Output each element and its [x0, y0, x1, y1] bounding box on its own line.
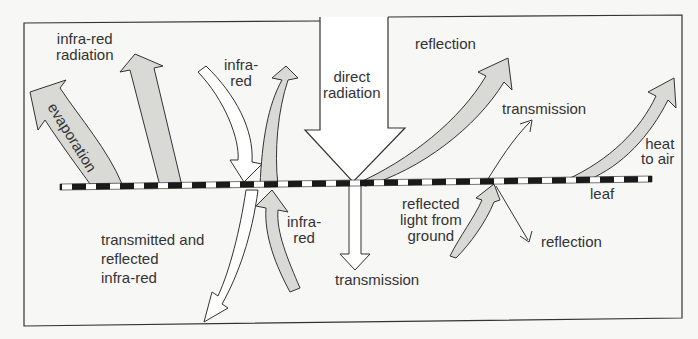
- label-transmission-bottom: transmission: [335, 272, 419, 288]
- label-transmitted-reflected-infrared: transmitted and reflected infra-red: [101, 230, 204, 287]
- label-reflected-light-from-ground: reflected light from ground: [400, 196, 462, 244]
- transmitted-reflected-infrared-arrow: [204, 190, 258, 322]
- label-transmission-top: transmission: [502, 101, 586, 117]
- reflection-bottom-arrow: [496, 186, 532, 242]
- transmission-top-arrow: [486, 120, 532, 182]
- label-infrared-below: infra- red: [287, 214, 321, 246]
- label-reflection-top: reflection: [415, 36, 476, 52]
- label-infrared-incoming: infra- red: [224, 57, 258, 89]
- label-direct-radiation: direct radiation: [323, 69, 381, 101]
- leaf-energy-diagram: infra-red radiation evaporation infra- r…: [0, 0, 698, 339]
- infrared-up-arrow: [260, 66, 298, 186]
- label-heat-to-air: heat to air: [641, 136, 674, 166]
- infrared-radiation-arrow: [120, 54, 182, 186]
- label-infrared-radiation: infra-red radiation: [56, 31, 114, 63]
- label-leaf: leaf: [590, 186, 614, 202]
- transmission-bottom-arrow: [340, 186, 370, 270]
- label-reflection-bottom: reflection: [541, 234, 602, 250]
